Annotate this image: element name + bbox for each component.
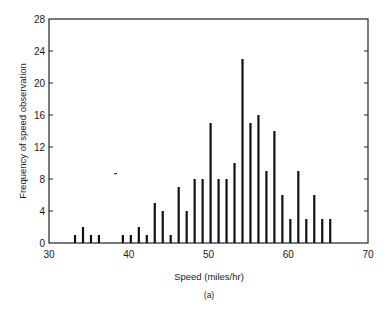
speed-frequency-chart: 0481216202428 3040506070 Speed (miles/hr… <box>0 0 390 314</box>
bar <box>281 195 283 243</box>
bar <box>209 123 211 243</box>
bar <box>202 179 204 243</box>
bar <box>257 115 259 243</box>
y-tick-label: 0 <box>39 238 45 249</box>
bars <box>74 59 331 243</box>
y-tick-label: 4 <box>39 206 45 217</box>
bar <box>130 235 132 243</box>
bar <box>313 195 315 243</box>
plot-frame <box>49 19 368 243</box>
bar <box>186 211 188 243</box>
x-axis-title: Speed (miles/hr) <box>174 271 244 282</box>
x-tick-label: 50 <box>203 249 215 260</box>
bar <box>122 235 124 243</box>
bar <box>162 211 164 243</box>
bar <box>265 171 267 243</box>
x-tick-label: 70 <box>362 249 374 260</box>
bar <box>82 227 84 243</box>
bar <box>329 219 331 243</box>
bar <box>74 235 76 243</box>
bar <box>98 235 100 243</box>
y-axis-title: Frequency of speed observation <box>17 63 28 199</box>
bar <box>225 179 227 243</box>
y-tick-label: 12 <box>34 142 46 153</box>
x-tick-label: 30 <box>43 249 55 260</box>
bar <box>289 219 291 243</box>
bar <box>178 187 180 243</box>
bar <box>273 131 275 243</box>
y-tick-label: 16 <box>34 110 46 121</box>
bar <box>90 235 92 243</box>
y-tick-label: 28 <box>34 14 46 25</box>
bar <box>233 163 235 243</box>
x-tick-label: 60 <box>283 249 295 260</box>
bar <box>154 203 156 243</box>
bar <box>249 123 251 243</box>
y-tick-label: 20 <box>34 78 46 89</box>
y-axis-ticks: 0481216202428 <box>34 14 368 249</box>
bar <box>241 59 243 243</box>
bar <box>305 219 307 243</box>
x-tick-label: 40 <box>123 249 135 260</box>
x-axis-ticks: 3040506070 <box>43 249 374 260</box>
bar <box>138 227 140 243</box>
bar <box>217 179 219 243</box>
stray-mark <box>114 173 117 174</box>
y-tick-label: 8 <box>39 174 45 185</box>
bar <box>170 235 172 243</box>
bar <box>321 219 323 243</box>
bar <box>146 235 148 243</box>
figure-caption: (a) <box>204 290 215 300</box>
bar <box>194 179 196 243</box>
bar <box>297 171 299 243</box>
y-tick-label: 24 <box>34 46 46 57</box>
